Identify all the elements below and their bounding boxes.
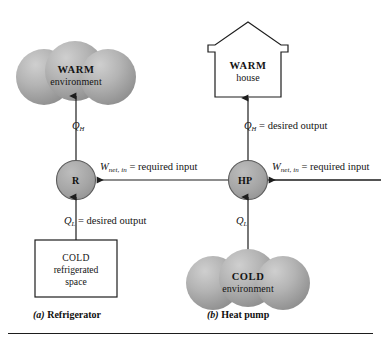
panel-b-cold-reservoir-label: COLD environment (200, 271, 296, 294)
panel-a-hot-reservoir-subtitle: environment (28, 76, 124, 87)
panel-b-ql-symbol: Q (236, 215, 244, 226)
panel-a-ql-subscript: L (72, 220, 76, 227)
panel-b-caption-tag: (b) (207, 309, 219, 320)
panel-a-cold-reservoir-line2: refrigerated (35, 264, 117, 276)
panel-a-cold-reservoir-line3: space (35, 276, 117, 288)
panel-a-ql-note: = desired output (78, 215, 146, 226)
panel-a-ql-label: QL = desired output (64, 215, 146, 226)
panel-a-caption: (a) Refrigerator (33, 309, 101, 320)
panel-a-work-subscript: net, in (109, 166, 127, 174)
panel-b-hot-reservoir-label: WARM house (208, 60, 288, 83)
panel-b-cold-reservoir-subtitle: environment (200, 283, 296, 294)
panel-b-qh-note: = desired output (259, 120, 327, 131)
figure-bottom-rule (8, 333, 373, 334)
panel-b-cold-reservoir-title: COLD (200, 271, 296, 283)
panel-a-cold-reservoir-title: COLD (35, 252, 117, 264)
panel-b-qh-subscript: H (252, 125, 257, 132)
panel-a-caption-tag: (a) (33, 309, 45, 320)
panel-b-qh-label: QH = desired output (244, 120, 327, 131)
panel-a-hot-reservoir-label: WARM environment (28, 64, 124, 87)
panel-a-qh-symbol: Q (72, 120, 80, 131)
panel-b-ql-label: QL (236, 215, 247, 226)
panel-a-caption-label: Refrigerator (47, 309, 101, 320)
panel-b-device-letter: HP (238, 175, 253, 186)
panel-a-device-letter: R (72, 175, 80, 186)
panel-b-qh-symbol: Q (244, 120, 252, 131)
panel-b-caption-label: Heat pump (221, 309, 269, 320)
panel-a-work-symbol: W (100, 161, 109, 172)
panel-a-qh-subscript: H (80, 125, 85, 132)
panel-a-qh-label: QH (72, 120, 84, 131)
panel-a-ql-symbol: Q (64, 215, 72, 226)
panel-b-hot-reservoir-subtitle: house (208, 72, 288, 83)
panel-a-work-label: Wnet, in = required input (100, 161, 197, 172)
panel-b-work-symbol: W (272, 161, 281, 172)
panel-b-work-note: = required input (302, 161, 370, 172)
panel-a-work-note: = required input (130, 161, 198, 172)
panel-a-hot-reservoir-title: WARM (28, 64, 124, 76)
panel-b-hot-reservoir-title: WARM (208, 60, 288, 72)
panel-b-work-subscript: net, in (281, 166, 299, 174)
panel-b-caption: (b) Heat pump (207, 309, 269, 320)
panel-b-ql-subscript: L (244, 220, 248, 227)
panel-a-cold-reservoir-label: COLD refrigerated space (35, 252, 117, 288)
panel-b-work-label: Wnet, in = required input (272, 161, 369, 172)
